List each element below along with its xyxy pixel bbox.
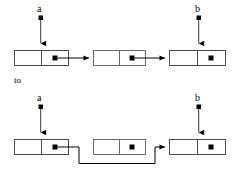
bottom-state-group [15, 105, 226, 164]
diagram-vector-layer [0, 0, 239, 179]
pointer-b-top-label: b [195, 4, 200, 14]
bottom-node3 [170, 140, 226, 155]
bottom-node3-pointer-dot [209, 145, 214, 150]
bottom-node2 [94, 140, 146, 155]
pointer-a-top [39, 16, 44, 44]
top-state-group [15, 16, 226, 66]
top-node3 [170, 51, 226, 66]
top-node2-pointer-dot [130, 56, 135, 61]
pointer-a-bottom-dot [39, 105, 44, 110]
pointer-a-bottom-label: a [37, 93, 41, 103]
pointer-a-bottom [39, 105, 44, 133]
top-node1-pointer-dot [53, 56, 58, 61]
pointer-b-bottom [197, 105, 202, 133]
pointer-a-top-dot [39, 16, 44, 21]
pointer-b-bottom-dot [197, 105, 202, 110]
pointer-b-top-dot [197, 16, 202, 21]
bottom-node1-pointer-dot [53, 145, 58, 150]
diagram-canvas: a b to a b [0, 0, 239, 179]
bottom-node2-pointer-dot [130, 145, 135, 150]
pointer-b-bottom-label: b [195, 93, 200, 103]
top-node3-pointer-dot [209, 56, 214, 61]
pointer-a-top-label: a [37, 4, 41, 14]
transition-label: to [14, 76, 21, 85]
pointer-b-top [197, 16, 202, 44]
